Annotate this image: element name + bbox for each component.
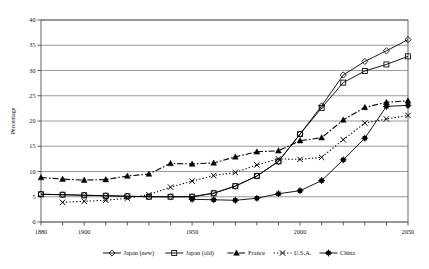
ytick-label-5: 5 bbox=[32, 193, 35, 200]
ytick-label-20: 20 bbox=[29, 117, 35, 124]
legend-item-japan-old[interactable]: Japan (old) bbox=[165, 249, 214, 257]
ytick-label-0: 0 bbox=[32, 218, 35, 225]
marker-triangle bbox=[168, 160, 174, 165]
series-line-2 bbox=[41, 101, 408, 180]
legend-item-japan-new[interactable]: Japan (new) bbox=[103, 249, 154, 257]
marker-triangle bbox=[362, 104, 368, 109]
marker-star bbox=[275, 190, 282, 197]
legend-item-france[interactable]: France bbox=[228, 249, 266, 256]
legend-item-china[interactable]: China bbox=[320, 249, 356, 256]
series-japan-old bbox=[39, 54, 411, 199]
marker-star bbox=[232, 197, 239, 204]
marker-triangle bbox=[340, 117, 346, 122]
marker-star bbox=[253, 195, 260, 202]
legend-item-u-s-a[interactable]: U.S.A. bbox=[274, 249, 312, 256]
legend-label-1: Japan (old) bbox=[186, 249, 214, 257]
xtick-label-1880: 1880 bbox=[35, 228, 47, 235]
series-china bbox=[189, 102, 412, 204]
series-japan-new bbox=[38, 37, 411, 200]
ytick-label-15: 15 bbox=[29, 142, 35, 149]
marker-x bbox=[211, 173, 216, 178]
marker-x bbox=[341, 137, 346, 142]
legend-label-4: China bbox=[340, 249, 355, 256]
series-line-0 bbox=[41, 40, 408, 197]
legend-label-2: France bbox=[248, 249, 265, 256]
marker-triangle bbox=[124, 173, 130, 178]
xtick-label-1900: 1900 bbox=[78, 228, 90, 235]
marker-triangle bbox=[234, 250, 240, 255]
y-axis-title: Percentage bbox=[9, 107, 16, 134]
xtick-label-2000: 2000 bbox=[294, 228, 306, 235]
marker-x bbox=[60, 200, 65, 205]
ytick-label-25: 25 bbox=[29, 92, 35, 99]
ytick-label-35: 35 bbox=[29, 41, 35, 48]
marker-star bbox=[210, 196, 217, 203]
xtick-label-2050: 2050 bbox=[402, 228, 414, 235]
series-france bbox=[38, 98, 411, 183]
chart-canvas: 051015202530354018801900195020002050Perc… bbox=[0, 0, 429, 269]
ytick-label-30: 30 bbox=[29, 67, 35, 74]
marker-x bbox=[168, 184, 173, 189]
series-line-1 bbox=[41, 56, 408, 196]
marker-triangle bbox=[81, 177, 87, 182]
xtick-label-1950: 1950 bbox=[186, 228, 198, 235]
ytick-label-40: 40 bbox=[29, 16, 35, 23]
marker-star bbox=[297, 187, 304, 194]
marker-star bbox=[325, 250, 332, 257]
ytick-label-10: 10 bbox=[29, 168, 35, 175]
series-line-4 bbox=[192, 105, 408, 200]
marker-x bbox=[81, 199, 86, 204]
legend-label-3: U.S.A. bbox=[294, 249, 312, 256]
legend-label-0: Japan (new) bbox=[124, 249, 155, 257]
line-chart: 051015202530354018801900195020002050Perc… bbox=[0, 0, 429, 269]
